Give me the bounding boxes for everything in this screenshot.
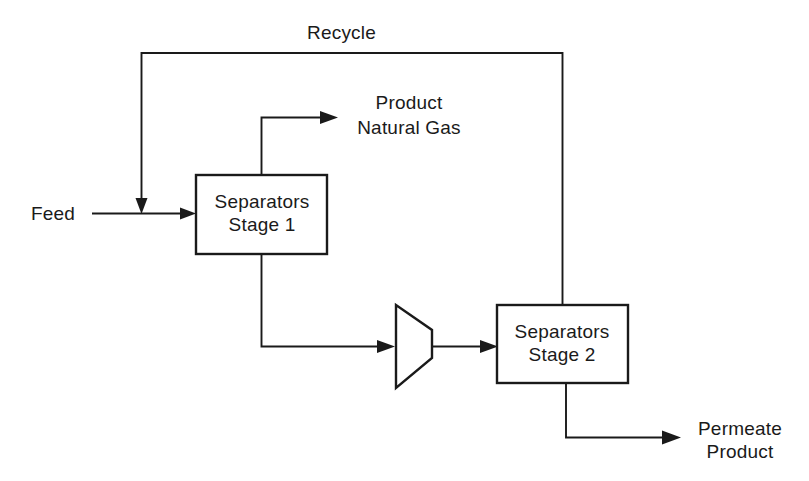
recycle-arrow-head-icon [136, 198, 148, 214]
unit-separators-stage-2[interactable]: Separators Stage 2 [497, 305, 628, 383]
product-gas-label-line1: Product [376, 92, 443, 113]
stream-compressor-to-stage2 [432, 340, 498, 353]
stream-permeate-product [566, 383, 681, 445]
stage1-retentate-arrow-head-icon [377, 340, 395, 353]
stream-feed [92, 208, 196, 220]
recycle-stream-label: Recycle [307, 22, 376, 43]
product-gas-label-line2: Natural Gas [357, 117, 461, 138]
flow-diagram-canvas: Separators Stage 1 Separators Stage 2 Re… [0, 0, 809, 481]
process-flow-diagram: Separators Stage 1 Separators Stage 2 Re… [0, 0, 809, 481]
product-gas-stream-line [262, 118, 327, 176]
permeate-arrow-head-icon [662, 431, 681, 445]
stage1-label-line2: Stage 1 [229, 214, 296, 235]
permeate-stream-line [566, 383, 668, 438]
compressor-symbol [396, 305, 432, 388]
stage1-retentate-stream-line [262, 254, 385, 347]
permeate-label-line1: Permeate [698, 418, 782, 439]
compressor-discharge-arrow-head-icon [480, 340, 498, 353]
unit-separators-stage-1[interactable]: Separators Stage 1 [196, 175, 327, 254]
feed-arrow-head-icon [180, 208, 196, 220]
permeate-label-line2: Product [707, 441, 774, 462]
stream-stage1-to-compressor [262, 254, 396, 353]
stream-product-natural-gas [262, 111, 339, 175]
stage2-label-line1: Separators [515, 321, 610, 342]
product-gas-arrow-head-icon [320, 111, 338, 124]
stage2-label-line2: Stage 2 [529, 344, 596, 365]
stage1-label-line1: Separators [215, 191, 310, 212]
feed-stream-label: Feed [31, 203, 75, 224]
